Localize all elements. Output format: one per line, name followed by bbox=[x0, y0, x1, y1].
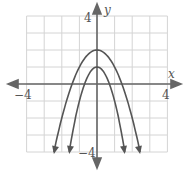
x-max-label: 4 bbox=[162, 88, 170, 102]
y-min-label: −4 bbox=[78, 146, 96, 160]
axes bbox=[8, 4, 181, 168]
y-axis-up-arrow-icon bbox=[93, 4, 101, 14]
x-axis-label: x bbox=[168, 67, 175, 81]
curve-arrow-icon bbox=[135, 145, 142, 154]
y-axis-label: y bbox=[103, 3, 111, 17]
x-axis-left-arrow-icon bbox=[8, 80, 18, 88]
x-min-label: −4 bbox=[14, 88, 32, 102]
y-max-label: 4 bbox=[84, 11, 92, 25]
curve-arrow-icon bbox=[52, 145, 59, 154]
graph: 4 y x −4 4 −4 bbox=[0, 0, 184, 177]
curve-arrow-icon bbox=[67, 145, 74, 153]
curve-arrow-icon bbox=[120, 145, 127, 153]
x-axis-right-arrow-icon bbox=[171, 80, 181, 88]
